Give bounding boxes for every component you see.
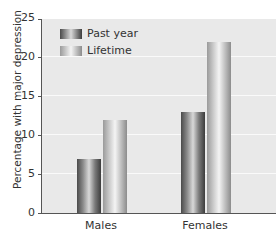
bar-females-past-year <box>181 112 205 213</box>
y-tick-label-25: 25 <box>15 11 35 24</box>
y-tick-25 <box>38 19 42 20</box>
y-tick-10 <box>38 135 42 136</box>
legend-label-lifetime: Lifetime <box>87 44 132 57</box>
legend-item-past-year: Past year <box>60 25 138 42</box>
y-tick-15 <box>38 96 42 97</box>
y-tick-5 <box>38 174 42 175</box>
y-tick-label-20: 20 <box>15 50 35 63</box>
legend: Past year Lifetime <box>60 25 138 59</box>
x-category-females: Females <box>165 219 245 232</box>
legend-label-past-year: Past year <box>87 27 138 40</box>
gridline-10 <box>42 134 276 135</box>
y-tick-label-10: 10 <box>15 128 35 141</box>
x-category-males: Males <box>61 219 141 232</box>
legend-item-lifetime: Lifetime <box>60 42 138 59</box>
legend-swatch-lifetime <box>60 46 82 56</box>
y-tick-label-5: 5 <box>15 167 35 180</box>
gridline-15 <box>42 95 276 96</box>
y-tick-20 <box>38 57 42 58</box>
y-tick-label-0: 0 <box>15 206 35 219</box>
bar-females-lifetime <box>207 42 231 213</box>
y-tick-label-15: 15 <box>15 89 35 102</box>
bar-males-lifetime <box>103 120 127 213</box>
legend-swatch-past-year <box>60 29 82 39</box>
bar-males-past-year <box>77 159 101 213</box>
y-tick-0 <box>38 213 42 214</box>
